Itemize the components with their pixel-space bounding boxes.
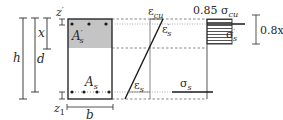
- label-h: h: [13, 51, 21, 65]
- label-x: x: [38, 26, 45, 40]
- dimension-stress-block: [252, 15, 260, 44]
- label-b: b: [86, 108, 94, 120]
- label-top-steel: A′s: [71, 28, 84, 45]
- dimension-bottom-cover: [59, 92, 65, 99]
- label-ecu: εcu: [148, 5, 163, 20]
- label-bottom-cover: z1: [53, 102, 65, 117]
- label-d: d: [37, 52, 45, 66]
- strain-profile: [125, 19, 163, 99]
- rc-section-diagram: h d x z′ z1 b A′s: [0, 0, 283, 120]
- label-bottom-steel: As: [84, 75, 98, 91]
- label-bottom-steel-strain: εs: [134, 79, 144, 94]
- label-top-steel-stress: σ′s: [226, 28, 237, 43]
- label-stress-block-depth: 0.8x: [260, 24, 283, 37]
- projection-lines: [112, 19, 207, 99]
- dimension-top-cover: [59, 19, 65, 25]
- label-top-cover: z′: [55, 5, 64, 19]
- label-concrete-stress: 0.85 σcu: [193, 4, 238, 19]
- label-top-steel-strain: ε′s: [162, 23, 171, 38]
- steel-projection-lines: [112, 24, 207, 92]
- label-bottom-steel-stress: σs: [180, 77, 192, 92]
